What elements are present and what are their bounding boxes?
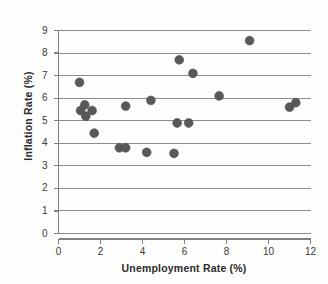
plot-area — [0, 0, 328, 284]
data-points — [75, 36, 300, 158]
data-point — [75, 78, 84, 87]
data-point — [291, 98, 300, 107]
data-point — [215, 92, 224, 101]
data-point — [88, 106, 97, 115]
y-axis-ticks — [54, 31, 59, 234]
data-point — [90, 129, 99, 138]
data-point — [80, 101, 89, 110]
data-point — [170, 149, 179, 158]
data-point — [184, 119, 193, 128]
data-point — [121, 143, 130, 152]
data-point — [142, 148, 151, 157]
data-point — [175, 55, 184, 64]
data-point — [189, 69, 198, 78]
data-point — [245, 36, 254, 45]
data-point — [147, 96, 156, 105]
data-point — [173, 119, 182, 128]
scatter-plot-figure: Inflation Rate (%) Unemployment Rate (%)… — [0, 0, 328, 284]
data-point — [121, 102, 130, 111]
x-axis-ticks — [59, 239, 311, 244]
